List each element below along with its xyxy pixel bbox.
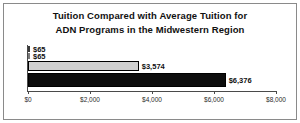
x-axis-tick xyxy=(152,91,153,94)
chart-container: Tuition Compared with Average Tuition fo… xyxy=(0,0,300,123)
bar-value-label: $6,376 xyxy=(229,76,252,85)
bar xyxy=(28,61,139,71)
x-axis-tick xyxy=(276,91,277,94)
x-axis-tick xyxy=(90,91,91,94)
bar xyxy=(28,46,30,52)
x-axis-tick xyxy=(28,91,29,94)
x-axis-tick-label: $8,000 xyxy=(266,96,286,103)
x-axis-tick-label: $2,000 xyxy=(80,96,100,103)
bar xyxy=(28,73,226,87)
x-axis-tick-label: $6,000 xyxy=(204,96,224,103)
x-axis-tick-label: $4,000 xyxy=(142,96,162,103)
bar xyxy=(28,53,30,59)
bar-value-label: $65 xyxy=(33,52,46,61)
plot-area: $0$2,000$4,000$6,000$8,000 $65$65$3,574$… xyxy=(0,0,300,123)
x-axis-tick-label: $0 xyxy=(24,96,31,103)
bar-value-label: $3,574 xyxy=(142,62,165,71)
x-axis-tick xyxy=(214,91,215,94)
